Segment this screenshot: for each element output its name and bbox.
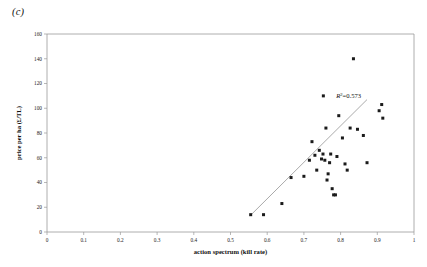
x-axis-ticks: 00.10.20.30.40.50.60.70.80.91: [46, 232, 416, 243]
data-point: [315, 169, 318, 172]
x-axis-title: action spectrum (kill rate): [194, 248, 267, 256]
data-point: [366, 161, 369, 164]
x-tick-label: 0: [46, 237, 49, 243]
y-axis-title: price per ha (£/TL): [15, 106, 23, 160]
data-point: [349, 127, 352, 130]
data-point: [328, 161, 331, 164]
data-point: [344, 162, 347, 165]
x-tick-label: 0.2: [117, 237, 124, 243]
data-point: [341, 136, 344, 139]
y-tick-label: 80: [37, 130, 43, 136]
data-points: [249, 57, 384, 216]
data-point: [378, 109, 381, 112]
data-point: [302, 175, 305, 178]
plot-frame: [47, 34, 414, 232]
data-point: [337, 114, 340, 117]
scatter-plot: 00.10.20.30.40.50.60.70.80.91 0204060801…: [0, 0, 427, 267]
x-tick-label: 0.3: [154, 237, 161, 243]
x-tick-label: 0.4: [190, 237, 197, 243]
data-point: [323, 159, 326, 162]
x-tick-label: 1: [413, 237, 416, 243]
y-tick-label: 100: [34, 105, 42, 111]
data-point: [346, 169, 349, 172]
data-point: [334, 193, 337, 196]
data-point: [324, 127, 327, 130]
data-point: [318, 149, 321, 152]
data-point: [249, 213, 252, 216]
data-point: [331, 187, 334, 190]
y-tick-label: 140: [34, 56, 42, 62]
data-point: [327, 172, 330, 175]
x-tick-label: 0.8: [337, 237, 344, 243]
data-point: [326, 179, 329, 182]
data-point: [356, 128, 359, 131]
data-point: [313, 154, 316, 157]
data-point: [321, 153, 324, 156]
y-tick-label: 120: [34, 80, 42, 86]
data-point: [329, 153, 332, 156]
data-point: [310, 140, 313, 143]
r-squared-annotation: R2=0.573: [322, 92, 362, 99]
trend-line: [250, 100, 367, 216]
y-tick-label: 60: [37, 155, 43, 161]
y-tick-label: 0: [39, 229, 42, 235]
legend-marker-icon: [322, 94, 325, 97]
y-axis-ticks: 020406080100120140160: [34, 31, 47, 235]
data-point: [308, 159, 311, 162]
data-point: [320, 157, 323, 160]
data-point: [280, 202, 283, 205]
x-tick-label: 0.9: [374, 237, 381, 243]
x-tick-label: 0.6: [264, 237, 271, 243]
r-squared-label: R2=0.573: [335, 92, 362, 99]
figure-container: (c) 00.10.20.30.40.50.60.70.80.91 020406…: [0, 0, 427, 267]
data-point: [381, 117, 384, 120]
data-point: [335, 155, 338, 158]
data-point: [362, 134, 365, 137]
y-tick-label: 20: [37, 204, 43, 210]
data-point: [380, 103, 383, 106]
data-point: [352, 57, 355, 60]
x-tick-label: 0.7: [301, 237, 308, 243]
y-tick-label: 40: [37, 179, 43, 185]
data-point: [262, 213, 265, 216]
x-tick-label: 0.1: [80, 237, 87, 243]
data-point: [290, 176, 293, 179]
x-tick-label: 0.5: [227, 237, 234, 243]
y-tick-label: 160: [34, 31, 42, 37]
